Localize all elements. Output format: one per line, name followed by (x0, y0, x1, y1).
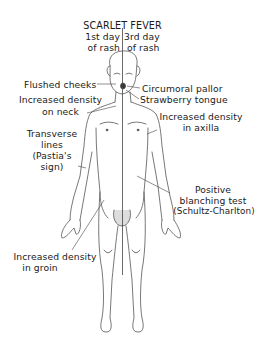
column-right-line2: of rash (127, 42, 160, 53)
label-blanching-line3: (Schultz-Charlton) (166, 206, 262, 217)
label-pastia-line3: (Pastia's (22, 150, 82, 161)
column-left-line1: 1st day (78, 31, 120, 42)
label-blanching-line2: blanching test (168, 195, 258, 206)
label-circumoral-pallor: Circumoral pallor (142, 83, 223, 94)
label-blanching-line1: Positive (168, 184, 258, 195)
label-pastia-line4: sign) (22, 161, 82, 172)
label-neck-line2: on neck (42, 106, 79, 117)
column-right-line1: 3rd day (124, 31, 160, 42)
label-groin-line2: in groin (10, 262, 70, 273)
label-groin-line1: Increased density (10, 251, 100, 262)
label-flushed-cheeks: Flushed cheeks (24, 79, 96, 90)
column-left-line2: of rash (78, 42, 120, 53)
label-pastia-line2: lines (22, 139, 82, 150)
label-strawberry-tongue: Strawberry tongue (140, 94, 228, 105)
label-axilla-line1: Increased density (155, 111, 247, 122)
label-pastia-line1: Transverse (22, 128, 82, 139)
label-neck-line1: Increased density (10, 94, 102, 105)
label-axilla-line2: in axilla (155, 122, 247, 133)
diagram-title: SCARLET FEVER (80, 20, 165, 31)
